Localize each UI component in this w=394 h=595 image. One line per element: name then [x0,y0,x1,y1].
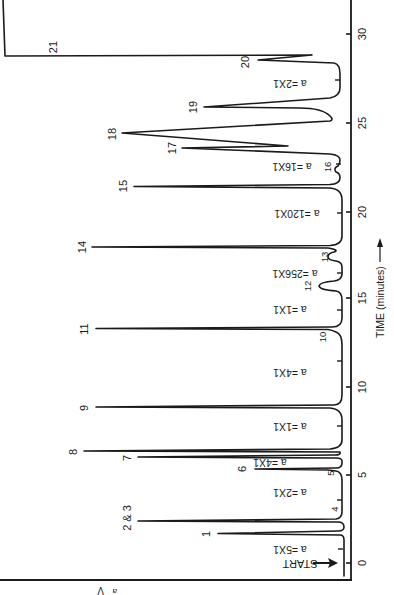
peak-label-6: 6 [236,466,248,472]
attenuation-label: a =5X1 [273,544,307,556]
peak-label-12: 12 [302,281,313,292]
tick-label-5: 5 [356,472,368,478]
time-axis-title: TIME (minutes) [374,266,386,338]
peak-label-7: 7 [121,455,133,461]
signal-axis-label: a [112,587,117,595]
time-arrow-icon [377,238,383,262]
peak-label-15: 15 [117,180,129,192]
peak-label-9: 9 [78,405,90,411]
attenuation-label: a =4X1 [253,457,287,469]
peak-label-18: 18 [106,128,118,140]
time-tick-labels: 0 5 10 15 20 25 30 [356,28,368,566]
peak-label-13: 13 [319,252,330,263]
peak-label-4: 4 [329,506,340,511]
peak-label-1: 1 [200,531,212,537]
attenuation-label: a =256X1 [272,268,317,280]
signal-axis-arrow: V [97,585,104,595]
attenuation-labels: a =5X1 a =2X1 a =4X1 a =1X1 a =4X1 a =1X… [253,78,320,556]
peak-label-19: 19 [187,101,199,113]
peak-label-2-3: 2 & 3 [121,505,133,531]
tick-label-30: 30 [356,28,368,40]
tick-label-20: 20 [356,206,368,218]
chromatogram-chart: 0 5 10 15 20 25 30 TIME (minutes) a V ST… [0,0,394,595]
start-label: START [282,558,317,570]
attenuation-label: a =16X1 [272,161,312,173]
attenuation-label: a =2X1 [273,487,307,499]
peak-label-11: 11 [78,323,90,334]
attenuation-label: a =1X1 [273,304,307,316]
attenuation-label: a =1X1 [273,421,307,433]
tick-label-15: 15 [356,292,368,304]
attenuation-label: a =120X1 [274,208,319,220]
peak-label-5: 5 [325,470,336,475]
peak-label-20: 20 [239,56,251,68]
tick-label-25: 25 [356,117,368,129]
tick-label-0: 0 [356,560,368,566]
tick-label-10: 10 [356,381,368,393]
peak-label-8: 8 [67,449,79,455]
peak-label-14: 14 [76,241,88,253]
attenuation-label: a =2X1 [273,78,307,90]
peak-label-16: 16 [322,162,333,173]
peak-labels: 1 2 & 3 4 5 6 7 8 9 10 11 12 13 14 15 16… [47,41,340,537]
attenuation-label: a =4X1 [273,367,307,379]
peak-label-17: 17 [166,142,178,154]
peak-label-10: 10 [317,332,328,343]
peak-label-21: 21 [47,41,59,53]
